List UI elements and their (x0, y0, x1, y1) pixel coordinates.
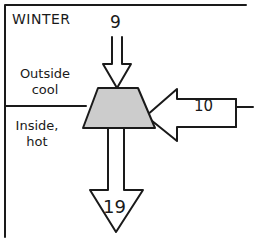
arrow-input-top (103, 37, 131, 88)
outside-condition: cool (12, 82, 78, 98)
winter-heat-flow-diagram: WINTER Outside cool Inside, hot 9 10 19 (0, 0, 255, 239)
zone-label-inside: Inside, hot (12, 118, 62, 151)
season-title: WINTER (12, 12, 71, 26)
arrow-input-right (146, 89, 236, 141)
flow-value-top: 9 (110, 14, 121, 31)
flow-value-right: 10 (194, 99, 213, 114)
inside-condition: hot (12, 134, 62, 150)
inside-label: Inside, (12, 118, 62, 134)
outside-label: Outside (12, 66, 78, 82)
flow-value-bottom: 19 (103, 198, 126, 216)
mixing-node (83, 88, 155, 128)
zone-label-outside: Outside cool (12, 66, 78, 99)
